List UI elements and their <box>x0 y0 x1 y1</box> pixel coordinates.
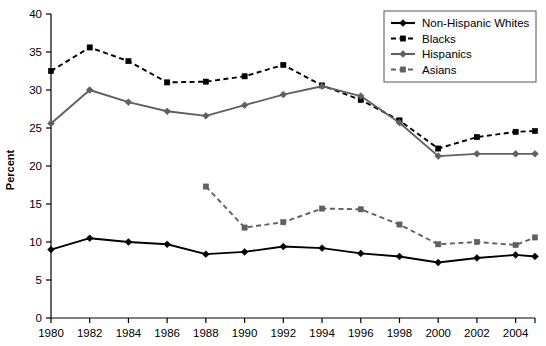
x-tick-label: 1986 <box>154 327 180 339</box>
x-tick-label: 1982 <box>77 327 103 339</box>
y-tick-label: 40 <box>29 8 42 20</box>
x-tick-label: 1998 <box>387 327 413 339</box>
legend-label: Blacks <box>422 33 456 45</box>
y-tick-label: 10 <box>29 236 42 248</box>
x-tick-label: 2000 <box>425 327 451 339</box>
y-tick-label: 35 <box>29 46 42 58</box>
y-axis-title-text: Percent <box>4 149 16 190</box>
y-tick-label: 15 <box>29 198 42 210</box>
series-hispanics <box>48 83 539 160</box>
y-axis-title: Percent <box>4 149 16 190</box>
series-asians <box>203 184 537 248</box>
x-tick-label: 1984 <box>116 327 142 339</box>
x-tick-label: 2002 <box>464 327 490 339</box>
x-tick-label: 1988 <box>193 327 219 339</box>
line-chart: 0510152025303540 19801982198419861988199… <box>0 0 546 346</box>
y-tick-label: 30 <box>29 84 42 96</box>
x-tick-label: 1992 <box>271 327 297 339</box>
legend-label: Hispanics <box>422 48 472 60</box>
x-tick-label: 1990 <box>232 327 258 339</box>
y-tick-label: 25 <box>29 122 42 134</box>
x-tick-label: 1994 <box>309 327 335 339</box>
x-tick-label: 1996 <box>348 327 374 339</box>
series-non-hispanic-whites <box>48 235 539 266</box>
legend-label: Non-Hispanic Whites <box>422 17 530 29</box>
y-tick-label: 5 <box>36 274 42 286</box>
y-tick-label: 20 <box>29 160 42 172</box>
chart-container: 0510152025303540 19801982198419861988199… <box>0 0 546 346</box>
chart-legend: Non-Hispanic WhitesBlacksHispanicsAsians <box>384 11 536 82</box>
legend-label: Asians <box>422 64 457 76</box>
x-axis-ticks: 1980198219841986198819901992199419961998… <box>38 318 535 339</box>
x-tick-label: 2004 <box>503 327 529 339</box>
x-tick-label: 1980 <box>38 327 64 339</box>
y-axis-ticks: 0510152025303540 <box>29 8 51 324</box>
y-tick-label: 0 <box>36 312 42 324</box>
